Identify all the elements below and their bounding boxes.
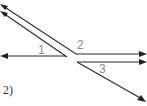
ray-lower-transversal xyxy=(3,13,67,57)
angle-2-label: 2 xyxy=(77,39,84,51)
arrowhead-icon xyxy=(139,59,147,65)
angle-1-label: 1 xyxy=(38,44,45,56)
ray-upper-transversal xyxy=(3,6,140,54)
ray-diagonal-down xyxy=(77,62,142,99)
geometry-diagram xyxy=(0,0,147,106)
arrowhead-icon xyxy=(137,95,146,102)
arrowhead-icon xyxy=(139,51,147,57)
angle-3-label: 3 xyxy=(99,63,106,75)
arrowhead-icon xyxy=(0,53,8,59)
problem-number: 2) xyxy=(3,84,13,96)
